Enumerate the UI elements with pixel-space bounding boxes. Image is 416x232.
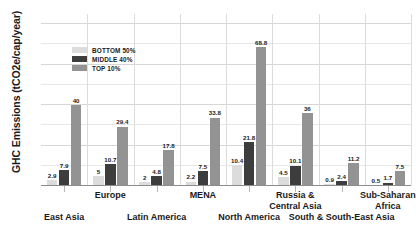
bar-value-label: 4.8 bbox=[152, 169, 161, 175]
x-tick-stub bbox=[157, 186, 158, 192]
bar-group: 510.729.4 bbox=[93, 14, 127, 186]
bar[interactable]: 33.8 bbox=[210, 118, 220, 186]
bar[interactable]: 29.4 bbox=[117, 127, 127, 186]
bar-value-label: 7.5 bbox=[199, 164, 208, 170]
category-separator bbox=[319, 14, 320, 186]
x-axis-label-line: Africa bbox=[360, 201, 416, 212]
legend-swatch-icon bbox=[72, 47, 87, 53]
bar[interactable]: 68.8 bbox=[256, 47, 266, 186]
legend-item[interactable]: TOP 10% bbox=[72, 64, 136, 72]
bar[interactable]: 7.9 bbox=[59, 170, 69, 186]
x-axis-label-line: Latin America bbox=[127, 212, 186, 223]
y-axis-title: GHC Emissions (tCO2e/cap/year) bbox=[10, 2, 22, 182]
bar-group: 0.51.77.5 bbox=[371, 14, 405, 186]
plot-area: 2.97.940510.729.424.817.82.27.533.810.42… bbox=[41, 14, 411, 186]
bar-value-label: 10.1 bbox=[289, 158, 301, 164]
x-axis-label-north-america: North America bbox=[218, 212, 280, 223]
x-axis-label-line: East Asia bbox=[44, 212, 84, 223]
bar[interactable]: 21.8 bbox=[244, 142, 254, 186]
bar-value-label: 68.8 bbox=[255, 40, 267, 46]
x-tick-stub bbox=[249, 186, 250, 192]
bar[interactable]: 40 bbox=[71, 105, 81, 186]
category-separator bbox=[134, 14, 135, 186]
bar[interactable]: 36 bbox=[302, 113, 312, 186]
category-separator bbox=[87, 14, 88, 186]
bar-value-label: 2.4 bbox=[337, 174, 346, 180]
legend-label: BOTTOM 50% bbox=[92, 47, 136, 54]
legend-swatch-icon bbox=[72, 56, 87, 62]
bar-group: 0.92.411.2 bbox=[324, 14, 358, 186]
x-axis-label-line: South & South-East Asia bbox=[289, 212, 395, 223]
bar-value-label: 7.5 bbox=[396, 164, 405, 170]
legend-item[interactable]: BOTTOM 50% bbox=[72, 46, 136, 54]
x-axis-label-latin-america: Latin America bbox=[127, 212, 186, 223]
legend-item[interactable]: MIDDLE 40% bbox=[72, 55, 136, 63]
category-separator bbox=[180, 14, 181, 186]
x-axis-baseline bbox=[41, 185, 411, 186]
legend-label: MIDDLE 40% bbox=[92, 56, 133, 63]
category-separator bbox=[272, 14, 273, 186]
bar-value-label: 10.4 bbox=[231, 158, 243, 164]
x-axis-label-russia-central-asia: Russia &Central Asia bbox=[269, 190, 321, 212]
bar[interactable]: 11.2 bbox=[348, 163, 358, 186]
x-axis-label-line: MENA bbox=[190, 190, 217, 201]
legend-swatch-icon bbox=[72, 65, 87, 71]
bar-value-label: 0.9 bbox=[325, 177, 334, 183]
bar-value-label: 36 bbox=[304, 106, 311, 112]
bar-value-label: 21.8 bbox=[243, 135, 255, 141]
bar-value-label: 5 bbox=[97, 169, 100, 175]
bar[interactable]: 10.1 bbox=[290, 166, 300, 186]
bar-value-label: 10.7 bbox=[104, 157, 116, 163]
x-axis-label-east-asia: East Asia bbox=[44, 212, 84, 223]
bar[interactable]: 10.4 bbox=[232, 165, 242, 186]
x-axis-label-line: Sub-Saharan bbox=[360, 190, 416, 201]
x-tick-stub bbox=[342, 186, 343, 192]
bar-group: 10.421.868.8 bbox=[232, 14, 266, 186]
x-axis-label-south-south-east-asia: South & South-East Asia bbox=[289, 212, 395, 223]
bar-group: 4.510.136 bbox=[278, 14, 312, 186]
category-separator bbox=[411, 14, 412, 186]
x-tick-stub bbox=[64, 186, 65, 192]
bar-value-label: 33.8 bbox=[209, 110, 221, 116]
legend-label: TOP 10% bbox=[92, 65, 121, 72]
category-separator bbox=[226, 14, 227, 186]
chart-legend: BOTTOM 50%MIDDLE 40%TOP 10% bbox=[72, 46, 136, 73]
bar-value-label: 2.2 bbox=[187, 174, 196, 180]
x-axis-label-mena: MENA bbox=[190, 190, 217, 201]
bar-value-label: 40 bbox=[73, 98, 80, 104]
bar-value-label: 2 bbox=[143, 175, 146, 181]
bar-group: 2.97.940 bbox=[47, 14, 81, 186]
bar-group: 24.817.8 bbox=[139, 14, 173, 186]
bar-value-label: 7.9 bbox=[60, 163, 69, 169]
x-axis-label-line: Europe bbox=[95, 190, 126, 201]
x-axis-label-line: North America bbox=[218, 212, 280, 223]
bar-value-label: 4.5 bbox=[279, 170, 288, 176]
bar-value-label: 0.5 bbox=[372, 178, 381, 184]
bar-group: 2.27.533.8 bbox=[186, 14, 220, 186]
x-axis-label-line: Russia & bbox=[269, 190, 321, 201]
bar[interactable]: 17.8 bbox=[163, 150, 173, 186]
bar-value-label: 11.2 bbox=[348, 156, 360, 162]
bar-value-label: 17.8 bbox=[163, 143, 175, 149]
bar-value-label: 1.7 bbox=[384, 175, 393, 181]
bar-value-label: 29.4 bbox=[116, 119, 128, 125]
x-axis-label-line: Central Asia bbox=[269, 201, 321, 212]
category-separator bbox=[365, 14, 366, 186]
x-axis-label-sub-saharan-africa: Sub-SaharanAfrica bbox=[360, 190, 416, 212]
x-axis-label-europe: Europe bbox=[95, 190, 126, 201]
bar[interactable]: 10.7 bbox=[105, 164, 115, 186]
bar-value-label: 2.9 bbox=[48, 173, 57, 179]
